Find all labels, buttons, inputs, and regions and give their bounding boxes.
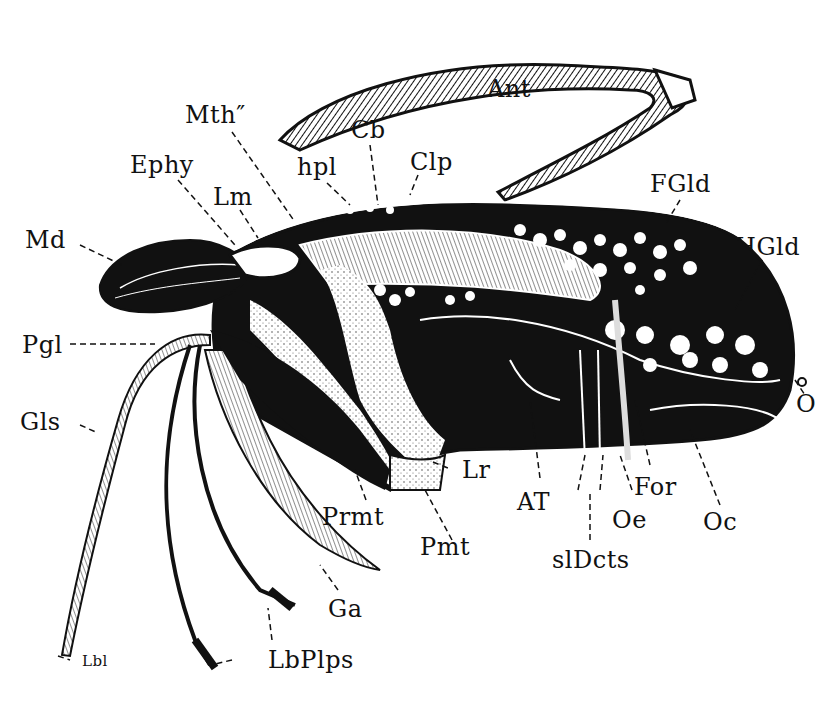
ocellus-marker bbox=[798, 378, 806, 386]
diagram-drawing bbox=[0, 0, 832, 702]
label-cibarium: Cb bbox=[351, 118, 386, 142]
label-antenna: Ant bbox=[487, 77, 531, 101]
label-prementum: Prmt bbox=[322, 505, 384, 529]
head-capsule bbox=[213, 202, 793, 490]
label-labellum: Lbl bbox=[82, 654, 108, 669]
label-food-gland: FGld bbox=[650, 172, 711, 196]
label-glossa: Gls bbox=[20, 410, 61, 434]
label-occiput: Oc bbox=[703, 510, 737, 534]
label-mth: Mth″ bbox=[185, 103, 246, 127]
label-paraglossa: Pgl bbox=[22, 333, 63, 357]
label-lorum: Lr bbox=[462, 458, 490, 482]
label-ocellus: O bbox=[796, 392, 816, 416]
label-hypopharyngeal-plate: hpl bbox=[297, 155, 337, 179]
glossa bbox=[62, 334, 210, 656]
label-galea: Ga bbox=[328, 597, 362, 621]
label-epipharynx: Ephy bbox=[130, 153, 194, 177]
label-labrum: Lm bbox=[213, 185, 253, 209]
label-labial-palps: LbPlps bbox=[268, 648, 354, 672]
label-clypeus: Clp bbox=[410, 150, 453, 174]
label-head-gland: HGld bbox=[735, 235, 800, 259]
label-foramen: For bbox=[634, 475, 677, 499]
label-anterior-tentorium: AT bbox=[517, 490, 550, 514]
label-oesophagus: Oe bbox=[612, 508, 647, 532]
postmentum bbox=[390, 455, 445, 490]
bee-head-diagram: Ant Mth″ Cb Clp hpl Ephy Lm Md FGld HGld… bbox=[0, 0, 832, 702]
label-salivary-ducts: slDcts bbox=[552, 548, 630, 572]
label-postmentum: Pmt bbox=[420, 535, 470, 559]
label-mandible: Md bbox=[25, 228, 66, 252]
